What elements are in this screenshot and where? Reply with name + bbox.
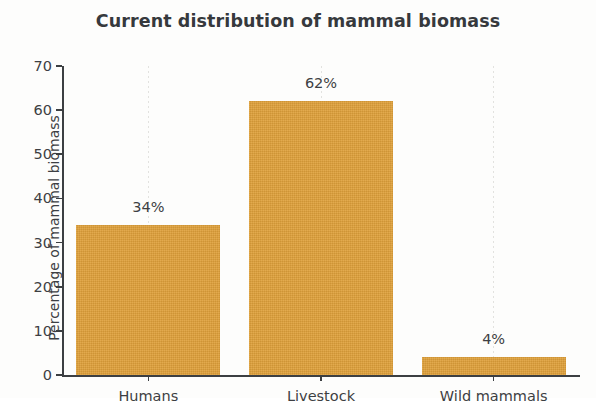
- y-tick-label: 30: [34, 235, 52, 251]
- y-tick-label: 20: [34, 279, 52, 295]
- bar-value-label: 34%: [132, 199, 164, 215]
- x-tick-label: Humans: [118, 388, 178, 404]
- y-tick-mark: [56, 109, 62, 111]
- x-tick-label: Wild mammals: [440, 388, 548, 404]
- y-tick-mark: [56, 242, 62, 244]
- y-tick-label: 70: [34, 58, 52, 74]
- y-tick-mark: [56, 330, 62, 332]
- y-tick-label: 10: [34, 323, 52, 339]
- x-tick-mark: [148, 375, 150, 381]
- x-tick-label: Livestock: [287, 388, 355, 404]
- bar-humans[interactable]: [76, 225, 220, 375]
- bar-value-label: 4%: [482, 331, 505, 347]
- y-tick-label: 60: [34, 102, 52, 118]
- y-tick-mark: [56, 65, 62, 67]
- bar-livestock[interactable]: [249, 101, 393, 375]
- y-tick-mark: [56, 153, 62, 155]
- y-tick-label: 50: [34, 146, 52, 162]
- y-tick-mark: [56, 374, 62, 376]
- x-tick-mark: [493, 375, 495, 381]
- y-axis-spine: [62, 66, 64, 376]
- grid-line: [493, 66, 494, 375]
- y-tick-mark: [56, 198, 62, 200]
- y-tick-label: 0: [43, 367, 52, 383]
- chart-title: Current distribution of mammal biomass: [0, 11, 596, 31]
- bar-wild-mammals[interactable]: [422, 357, 566, 375]
- x-tick-mark: [320, 375, 322, 381]
- bar-value-label: 62%: [305, 75, 337, 91]
- y-tick-label: 40: [34, 190, 52, 206]
- plot-area: 010203040506070 34%62%4% HumansLivestock…: [62, 66, 580, 375]
- y-tick-mark: [56, 286, 62, 288]
